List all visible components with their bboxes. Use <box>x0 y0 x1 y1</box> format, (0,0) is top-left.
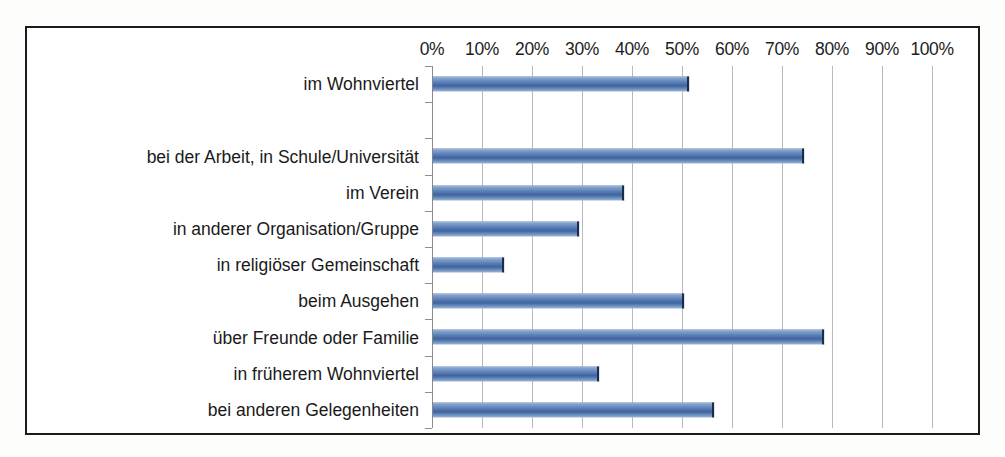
category-label: im Wohnviertel <box>304 74 419 94</box>
bar <box>433 221 579 236</box>
category-label: in früherem Wohnviertel <box>234 364 419 384</box>
y-axis-tick <box>425 356 432 357</box>
x-tick-label: 80% <box>815 38 849 60</box>
x-tick-label: 30% <box>565 38 599 60</box>
bar-row <box>432 283 932 319</box>
plot-region <box>432 66 932 428</box>
category-label: in religiöser Gemeinschaft <box>217 255 419 275</box>
category-label: im Verein <box>346 183 419 203</box>
x-tick-label: 40% <box>615 38 649 60</box>
y-axis-tick <box>425 175 432 176</box>
bar <box>433 77 689 92</box>
bar-rows <box>432 66 932 428</box>
bar <box>433 366 599 381</box>
bar-row <box>432 175 932 211</box>
bar-row <box>432 102 932 138</box>
x-tick-label: 90% <box>865 38 899 60</box>
bar-row <box>432 211 932 247</box>
scan-background: 0%10%20%30%40%50%60%70%80%90%100% im Woh… <box>0 0 1005 457</box>
gridline <box>932 66 933 428</box>
y-axis-tick <box>425 211 432 212</box>
x-tick-label: 10% <box>465 38 499 60</box>
y-axis-tick <box>425 102 432 103</box>
bar-row <box>432 356 932 392</box>
bar <box>433 294 684 309</box>
x-tick-label: 60% <box>715 38 749 60</box>
x-axis-tick-labels: 0%10%20%30%40%50%60%70%80%90%100% <box>432 38 952 64</box>
bar <box>433 185 624 200</box>
y-axis-tick <box>425 247 432 248</box>
y-axis-tick <box>425 138 432 139</box>
y-axis-tick <box>425 319 432 320</box>
category-label: beim Ausgehen <box>298 291 419 311</box>
x-tick-label: 100% <box>910 38 953 60</box>
y-axis-tick <box>425 283 432 284</box>
category-label: bei der Arbeit, in Schule/Universität <box>147 147 419 167</box>
x-tick-label: 20% <box>515 38 549 60</box>
bar-row <box>432 319 932 355</box>
x-tick-label: 0% <box>420 38 445 60</box>
category-axis-labels: im Wohnviertelbei der Arbeit, in Schule/… <box>27 66 427 428</box>
category-label: in anderer Organisation/Gruppe <box>173 219 419 239</box>
bar-row <box>432 66 932 102</box>
category-label: bei anderen Gelegenheiten <box>208 400 419 420</box>
chart-frame: 0%10%20%30%40%50%60%70%80%90%100% im Woh… <box>25 26 980 435</box>
bar-row <box>432 138 932 174</box>
bar <box>433 330 824 345</box>
bar <box>433 258 504 273</box>
bar-row <box>432 392 932 428</box>
y-axis-tick <box>425 428 432 429</box>
bar <box>433 149 804 164</box>
bar-chart: 0%10%20%30%40%50%60%70%80%90%100% im Woh… <box>27 28 978 433</box>
y-axis-tick <box>425 66 432 67</box>
bar-row <box>432 247 932 283</box>
category-label: über Freunde oder Familie <box>213 328 419 348</box>
x-tick-label: 70% <box>765 38 799 60</box>
x-tick-label: 50% <box>665 38 699 60</box>
bar <box>433 402 714 417</box>
y-axis-tick <box>425 392 432 393</box>
